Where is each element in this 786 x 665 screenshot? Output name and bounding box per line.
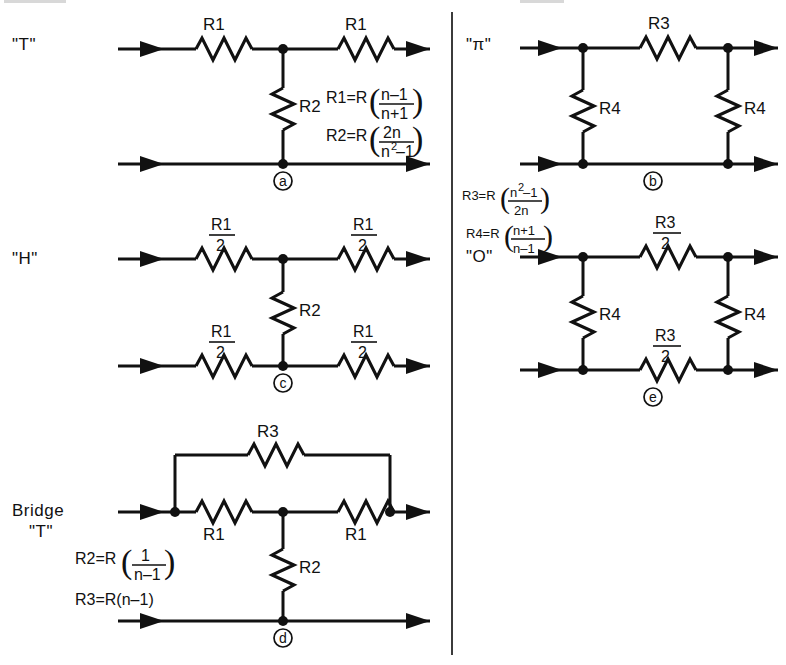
- t-network: "T" R1 R1 R2 a: [12, 15, 430, 190]
- o-resistor-r4-left: [572, 296, 594, 338]
- o-r4-left-label: R4: [599, 305, 621, 324]
- h-arm-top-left-denominator: 2: [216, 237, 225, 254]
- bridge-right-node: [385, 507, 395, 517]
- t-resistor-r2: [272, 88, 294, 130]
- bridge-left-node: [170, 507, 180, 517]
- pi-output-arrow-icon: [754, 40, 778, 56]
- t-bottom-node: [278, 159, 288, 169]
- pi-bottom-input-arrow-icon: [538, 156, 562, 172]
- t-r1-left-label: R1: [203, 15, 225, 34]
- o-bottom-series-denominator: 2: [661, 348, 670, 365]
- o-bottom-output-arrow-icon: [754, 362, 778, 378]
- bridge-bottom-output-arrow-icon: [406, 613, 430, 629]
- bridge-formula-r2-numerator: 1: [141, 547, 150, 564]
- t-resistor-r1-right: [338, 38, 394, 60]
- h-arm-top-right-numerator: R1: [353, 216, 374, 233]
- o-bottom-series-label: R3 2: [653, 327, 681, 365]
- o-network-label: "O": [466, 247, 493, 266]
- t-formula-r2: R2=R ( 2n n 2 –1 ): [326, 120, 423, 160]
- bridge-resistor-r2: [272, 549, 294, 591]
- o-top-series-denominator: 2: [661, 235, 670, 252]
- t-formula-r1-lhs: R1=R: [326, 89, 367, 106]
- h-bottom-input-arrow-icon: [140, 358, 164, 374]
- pi-resistor-r4-right: [717, 90, 739, 132]
- t-formula-r2-paren-open: (: [369, 120, 380, 158]
- bridge-input-arrow-icon: [140, 504, 164, 520]
- o-top-output-arrow-icon: [754, 249, 778, 265]
- h-bottom-node: [278, 361, 288, 371]
- bridge-formula-r2-lhs: R2=R: [75, 550, 116, 567]
- o-top-series-label: R3 2: [653, 214, 681, 252]
- pi-r3-label: R3: [648, 14, 670, 33]
- h-bottom-output-arrow-icon: [406, 358, 430, 374]
- o-resistor-r4-right: [717, 296, 739, 338]
- bridge-t-label-line2: "T": [29, 522, 53, 541]
- h-resistor-r2: [272, 292, 294, 334]
- o-bottom-left-node: [578, 365, 588, 375]
- pi-formula-r3-denominator: 2n: [514, 203, 528, 218]
- pi-formula-r3-paren-close: ): [540, 181, 550, 215]
- bridge-t-mark-letter: d: [279, 630, 287, 646]
- t-formula-r1-paren-open: (: [369, 82, 380, 120]
- bridge-output-arrow-icon: [406, 504, 430, 520]
- pi-resistor-r3: [640, 37, 696, 59]
- o-r4-right-label: R4: [744, 305, 766, 324]
- h-arm-label-bottom-right: R1 2: [351, 323, 377, 361]
- pi-formula-r4-paren-close: ): [543, 219, 553, 253]
- h-arm-label-top-left: R1 2: [209, 216, 235, 254]
- o-bottom-input-arrow-icon: [538, 362, 562, 378]
- t-formula-r2-denominator-base: n: [381, 143, 390, 160]
- o-bottom-right-node: [723, 365, 733, 375]
- bridge-bottom-node: [278, 616, 288, 626]
- pi-r4-left-label: R4: [599, 99, 621, 118]
- h-top-input-arrow-icon: [140, 251, 164, 267]
- pi-bottom-output-arrow-icon: [754, 156, 778, 172]
- pi-formula-r4-numerator: n+1: [513, 223, 535, 238]
- t-r2-label: R2: [299, 97, 321, 116]
- pi-network-label: "π": [466, 35, 491, 54]
- diagram-sheet: "T" R1 R1 R2 a: [0, 0, 786, 665]
- pi-formula-r3-numerator-rest: –1: [523, 185, 537, 200]
- t-formula-r1-numerator: n–1: [381, 86, 408, 103]
- h-arm-bottom-left-numerator: R1: [211, 323, 232, 340]
- attenuator-networks-figure: "T" R1 R1 R2 a: [0, 0, 786, 665]
- t-formula-r2-numerator: 2n: [383, 124, 401, 141]
- pi-formula-r3-lhs: R3=R: [462, 188, 496, 203]
- t-r1-right-label: R1: [345, 15, 367, 34]
- t-resistor-r1-left: [196, 38, 252, 60]
- h-arm-label-bottom-left: R1 2: [209, 323, 235, 361]
- h-r2-label: R2: [299, 301, 321, 320]
- pi-formula-r3-paren-open: (: [500, 181, 510, 215]
- pi-bottom-right-node: [723, 159, 733, 169]
- bridge-formula-r2-denominator: n–1: [134, 566, 161, 583]
- scan-edge-artifact-right: [520, 0, 564, 3]
- pi-formula-r4-denominator: n–1: [513, 241, 535, 256]
- bridge-bottom-input-arrow-icon: [140, 613, 164, 629]
- t-input-arrow-icon: [140, 41, 164, 57]
- bridge-t-label-line1: Bridge: [12, 501, 64, 520]
- pi-formula-r4-lhs: R4=R: [466, 226, 500, 241]
- t-bottom-input-arrow-icon: [140, 156, 164, 172]
- pi-formula-r3: R3=R ( n 2 –1 2n ): [462, 181, 550, 218]
- pi-input-arrow-icon: [538, 40, 562, 56]
- bridge-t-network: Bridge "T" R3 R1 R1: [12, 422, 430, 647]
- o-top-series-numerator: R3: [655, 214, 676, 231]
- bridge-formula-r2: R2=R ( 1 n–1 ): [75, 543, 175, 583]
- t-output-arrow-icon: [406, 41, 430, 57]
- t-formula-r2-lhs: R2=R: [326, 127, 367, 144]
- pi-network-mark-letter: b: [649, 173, 657, 189]
- h-network: "H" R1 2 R1 2: [12, 216, 430, 392]
- scan-edge-artifact-left: [4, 0, 66, 3]
- bridge-r1-left-label: R1: [203, 525, 225, 544]
- pi-resistor-r4-left: [572, 90, 594, 132]
- h-network-label: "H": [12, 249, 38, 268]
- pi-bottom-left-node: [578, 159, 588, 169]
- t-formula-r2-paren-close: ): [412, 120, 423, 158]
- bridge-resistor-r3: [248, 444, 304, 466]
- h-arm-label-top-right: R1 2: [351, 216, 377, 254]
- t-network-mark-letter: a: [279, 173, 287, 189]
- h-arm-top-left-numerator: R1: [211, 216, 232, 233]
- h-arm-bottom-right-numerator: R1: [353, 323, 374, 340]
- bridge-r1-right-label: R1: [345, 525, 367, 544]
- o-network-mark-letter: e: [649, 389, 657, 405]
